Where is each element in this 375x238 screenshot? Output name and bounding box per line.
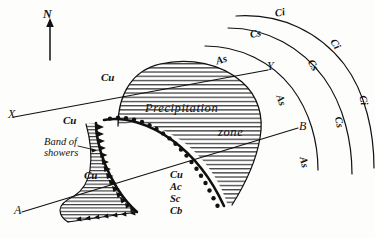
frontal-cyclone-figure: N X Y A B Cu Cu Cu Band of showers Preci… [0,0,375,238]
section-line-ab [22,128,298,212]
north-arrow [46,18,54,60]
diagram-canvas [0,0,375,238]
band-of-showers-fill [55,115,150,230]
